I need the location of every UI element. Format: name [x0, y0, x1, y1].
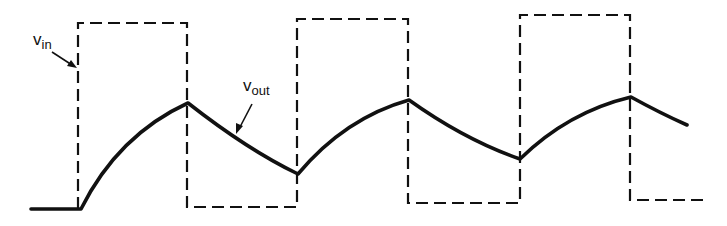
vout-label: vout [243, 76, 270, 98]
vout-arrow-icon [236, 104, 252, 134]
vin-label: vin [33, 30, 52, 52]
vout-curve [31, 97, 687, 209]
vin-arrow-icon [52, 52, 77, 68]
waveform-diagram: vin vout [0, 0, 727, 226]
